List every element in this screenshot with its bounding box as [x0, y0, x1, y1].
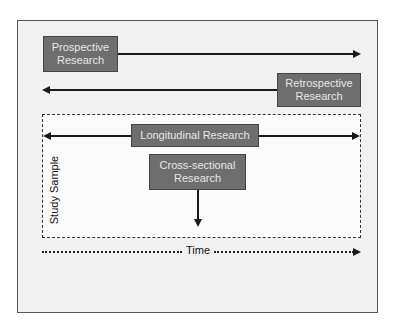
- arrow-right-icon: [353, 50, 361, 58]
- time-axis-left: [42, 251, 182, 253]
- retrospective-arrow-line: [49, 89, 277, 91]
- study-sample-label: Study Sample: [44, 150, 64, 230]
- longitudinal-research-box: Longitudinal Research: [131, 124, 259, 147]
- study-sample-text: Study Sample: [48, 156, 60, 224]
- cross-sectional-arrow-line: [197, 190, 199, 220]
- longitudinal-arrow-left-line: [50, 135, 131, 137]
- cross-sectional-research-box: Cross-sectional Research: [149, 154, 246, 190]
- time-axis-right: [214, 251, 354, 253]
- arrow-down-icon: [194, 219, 202, 227]
- retrospective-research-box: Retrospective Research: [277, 73, 361, 107]
- arrow-left-icon: [42, 86, 50, 94]
- prospective-arrow-line: [118, 53, 354, 55]
- longitudinal-arrow-right-line: [259, 135, 353, 137]
- time-label: Time: [186, 244, 210, 256]
- arrow-right-icon: [353, 248, 361, 256]
- arrow-right-icon: [352, 132, 360, 140]
- arrow-left-icon: [43, 132, 51, 140]
- prospective-research-box: Prospective Research: [43, 36, 118, 72]
